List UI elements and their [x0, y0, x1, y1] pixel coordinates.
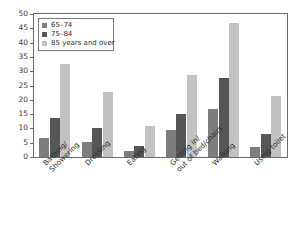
x-axis-category-label: Dressing	[83, 138, 112, 167]
x-axis-category-label: Using toilet	[252, 132, 288, 168]
x-axis-category-label: Walking	[210, 141, 237, 168]
x-axis-category-label: Bathing/Showering	[41, 134, 81, 174]
x-axis-labels: Bathing/ShoweringDressingEatingGetting i…	[0, 0, 303, 225]
bar-chart-figure: 05101520253035404550 65–7475–8485 years …	[0, 0, 303, 225]
x-axis-category-label: Eating	[125, 145, 148, 168]
x-axis-label-line: Dressing	[83, 138, 112, 167]
x-axis-label-line: Using toilet	[252, 132, 288, 168]
x-axis-label-line: Walking	[210, 141, 237, 168]
x-axis-label-line: Eating	[125, 145, 148, 168]
